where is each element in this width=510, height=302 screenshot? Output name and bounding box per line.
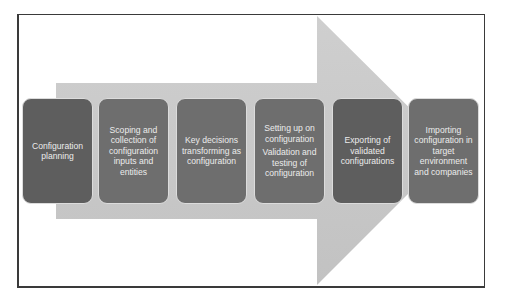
step-6-importing: Importing configuration in target enviro…: [408, 98, 479, 204]
step-label: Importing configuration in target enviro…: [412, 125, 475, 178]
step-3-key-decisions: Key decisions transforming as configurat…: [176, 98, 247, 204]
step-label: Key decisions transforming as configurat…: [180, 135, 243, 167]
step-label: Exporting of validated configurations: [336, 135, 399, 167]
step-label: Setting up on configuration: [258, 123, 321, 144]
step-4-setup-validation: Setting up on configuration Validation a…: [254, 98, 325, 204]
step-1-configuration-planning: Configuration planning: [22, 98, 93, 204]
step-2-scoping: Scoping and collection of configuration …: [98, 98, 169, 204]
step-label-secondary: Validation and testing of configuration: [258, 147, 321, 179]
step-label: Scoping and collection of configuration …: [102, 125, 165, 178]
step-label: Configuration planning: [26, 141, 89, 162]
step-5-exporting: Exporting of validated configurations: [332, 98, 403, 204]
